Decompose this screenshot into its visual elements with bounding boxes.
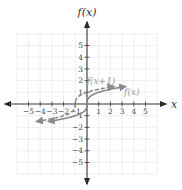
x-tick-label: −5 (23, 107, 34, 116)
y-axis-title: f(x) (77, 6, 97, 19)
x-tick-label: −3 (46, 107, 57, 116)
x-tick-label: −4 (35, 107, 46, 116)
y-tick-label: 3 (78, 65, 83, 74)
y-tick-label: −4 (72, 146, 83, 155)
y-tick-label: 5 (78, 41, 83, 50)
x-tick-label: 4 (131, 107, 136, 116)
series-label-f-x-plus-1: f(x+1) (86, 76, 116, 86)
x-tick-label: 1 (96, 107, 101, 116)
y-tick-label: −5 (72, 158, 83, 167)
chart: −5−4−3−2−112345−5−4−3−2−112345 f(x) x f(… (0, 0, 182, 190)
x-tick-label: 2 (108, 107, 113, 116)
x-axis-title: x (171, 98, 178, 111)
y-tick-label: 2 (78, 76, 83, 85)
y-tick-label: 4 (78, 53, 83, 62)
series-label-f-x: f(x) (123, 87, 140, 97)
y-tick-label: −3 (72, 135, 83, 144)
y-tick-label: −2 (72, 123, 83, 132)
x-tick-label: 3 (120, 107, 125, 116)
x-tick-label: 5 (143, 107, 148, 116)
axes (5, 22, 166, 184)
